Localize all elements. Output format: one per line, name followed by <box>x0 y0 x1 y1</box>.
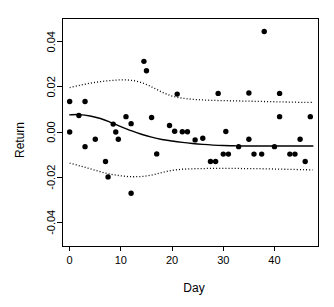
data-point <box>259 151 264 156</box>
data-point <box>262 29 267 34</box>
data-point <box>287 151 292 156</box>
data-point <box>213 159 218 164</box>
data-point <box>141 59 146 64</box>
data-point <box>82 99 87 104</box>
x-tick-label: 30 <box>217 254 229 266</box>
data-point <box>292 151 297 156</box>
data-point <box>277 91 282 96</box>
data-point <box>103 159 108 164</box>
data-point <box>236 144 241 149</box>
data-point <box>223 129 228 134</box>
x-axis-title: Day <box>183 281 204 295</box>
data-point <box>175 91 180 96</box>
y-tick-label: -0.02 <box>45 165 57 190</box>
data-point <box>93 137 98 142</box>
x-tick-label: 10 <box>115 254 127 266</box>
data-point <box>105 174 110 179</box>
data-point <box>67 129 72 134</box>
data-point <box>200 136 205 141</box>
data-point <box>208 159 213 164</box>
scatter-plot-figure: 0.040.020.00-0.02-0.04 010203040 Day Ret… <box>0 0 334 307</box>
data-point <box>76 113 81 118</box>
y-tick-label: -0.04 <box>45 210 57 235</box>
data-point <box>144 68 149 73</box>
data-point <box>111 121 116 126</box>
data-point <box>123 114 128 119</box>
data-point <box>303 159 308 164</box>
data-point <box>215 91 220 96</box>
x-tick-label: 20 <box>166 254 178 266</box>
data-point <box>67 99 72 104</box>
data-point <box>192 137 197 142</box>
data-point <box>272 144 277 149</box>
data-point <box>277 114 282 119</box>
data-point <box>172 129 177 134</box>
data-point <box>116 137 121 142</box>
data-point <box>154 151 159 156</box>
data-point <box>297 137 302 142</box>
y-tick-label: 0.02 <box>45 76 57 97</box>
y-tick-label: 0.04 <box>45 31 57 52</box>
data-point <box>167 123 172 128</box>
data-point <box>149 115 154 120</box>
data-point <box>185 129 190 134</box>
data-point <box>221 151 226 156</box>
x-tick-label: 40 <box>268 254 280 266</box>
data-point <box>251 151 256 156</box>
plot-canvas: 0.040.020.00-0.02-0.04 010203040 Day Ret… <box>0 0 334 307</box>
data-point <box>226 151 231 156</box>
data-point <box>246 90 251 95</box>
data-point <box>113 129 118 134</box>
y-axis-title: Return <box>13 122 27 158</box>
data-point <box>128 190 133 195</box>
y-tick-label: 0.00 <box>45 121 57 142</box>
data-point <box>128 121 133 126</box>
data-point <box>246 137 251 142</box>
data-point <box>180 129 185 134</box>
data-point <box>308 114 313 119</box>
data-point <box>82 144 87 149</box>
x-tick-label: 0 <box>67 254 73 266</box>
